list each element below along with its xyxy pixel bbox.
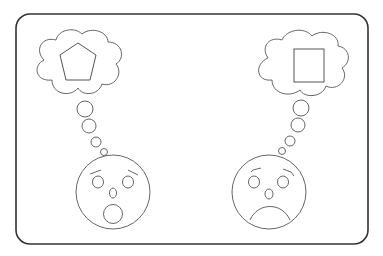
left-thought-bubbles [77,101,108,156]
diagram-canvas [0,0,383,256]
left-face-surprised [76,155,150,229]
left-thought-cloud [37,30,122,94]
right-thought-bubbles [279,100,310,155]
right-thought-cloud [259,30,349,95]
right-face-sad [232,155,306,229]
